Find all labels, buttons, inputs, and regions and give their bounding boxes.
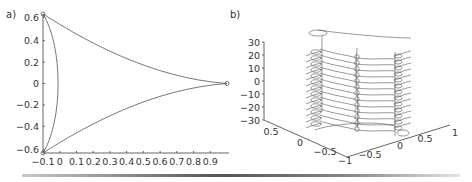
x-tick-label: 0 bbox=[57, 156, 63, 167]
x-tick-label: 0.1 bbox=[69, 156, 84, 167]
y-tick-label: −0.2 bbox=[16, 99, 39, 110]
y-tick-label: 0.6 bbox=[24, 12, 39, 23]
y-tick-label-3d: −0.5 bbox=[313, 146, 336, 157]
x-tick-label-3d: −1 bbox=[338, 155, 352, 166]
z-tick-label: 30 bbox=[248, 37, 260, 48]
bottom-rule bbox=[22, 174, 460, 177]
z-tick-label: 10 bbox=[248, 63, 260, 74]
y-tick-label-3d: 0.5 bbox=[263, 126, 278, 137]
x-tick-label: 0.5 bbox=[136, 156, 151, 167]
panel-b: b) 3020100−10−20−300.50−0.5−1−0.500.51 bbox=[230, 9, 458, 166]
x-tick-label: 0.2 bbox=[86, 156, 101, 167]
x-tick-label: 0.8 bbox=[186, 156, 201, 167]
y-tick-label: 0.2 bbox=[24, 57, 39, 68]
figure: a) 0.60.40.20−0.2−0.4−0.6 −0.100.10.20.3… bbox=[0, 0, 472, 182]
panel-b-label: b) bbox=[230, 9, 240, 20]
panel-a: a) 0.60.40.20−0.2−0.4−0.6 −0.100.10.20.3… bbox=[6, 9, 229, 167]
panel-a-curve bbox=[41, 12, 229, 155]
panel-b-3d-curves bbox=[306, 30, 411, 136]
x-tick-label-3d: 0.5 bbox=[417, 133, 432, 144]
y-tick-label: −0.4 bbox=[16, 121, 39, 132]
x-tick-label: −0.1 bbox=[31, 156, 54, 167]
x-tick-label-3d: −0.5 bbox=[358, 149, 381, 160]
z-tick-label: −30 bbox=[240, 115, 260, 126]
x-tick-label: 0.7 bbox=[169, 156, 184, 167]
y-tick-label: 0.4 bbox=[24, 35, 39, 46]
x-tick-label: 0.3 bbox=[102, 156, 117, 167]
z-tick-label: 0 bbox=[254, 76, 260, 87]
x-tick-label-3d: 0 bbox=[397, 140, 403, 151]
x-tick-label: 0.4 bbox=[119, 156, 134, 167]
z-tick-label: −20 bbox=[240, 102, 260, 113]
y-tick-label: −0.6 bbox=[16, 144, 39, 155]
deltoid-curve bbox=[43, 14, 227, 153]
y-tick-label-3d: 0 bbox=[297, 137, 303, 148]
x-tick-label-3d: 1 bbox=[452, 127, 458, 138]
panel-a-label: a) bbox=[6, 9, 16, 20]
y-tick-label: 0 bbox=[33, 78, 39, 89]
x-tick-label: 0.6 bbox=[153, 156, 168, 167]
x-tick-label: 0.9 bbox=[203, 156, 218, 167]
z-tick-label: −10 bbox=[240, 89, 260, 100]
panel-a-y-ticks: 0.60.40.20−0.2−0.4−0.6 bbox=[16, 12, 45, 156]
z-tick-label: 20 bbox=[248, 50, 260, 61]
panel-a-axes bbox=[43, 14, 229, 153]
